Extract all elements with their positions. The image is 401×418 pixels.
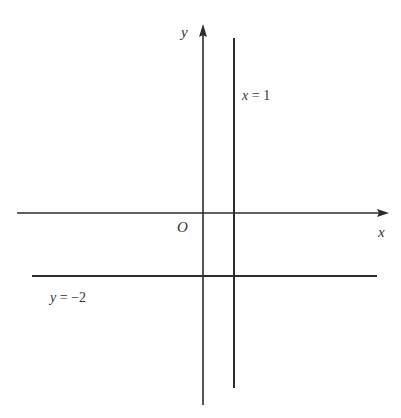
- coordinate-plane: y x O x = 1 y = −2: [0, 0, 401, 418]
- x-axis-label: x: [377, 224, 385, 240]
- equation-y-equals-neg2: y = −2: [48, 290, 86, 305]
- origin-label: O: [177, 219, 188, 235]
- equation-x-equals-1: x = 1: [241, 88, 270, 103]
- y-axis: [199, 24, 207, 405]
- y-axis-label: y: [179, 24, 188, 40]
